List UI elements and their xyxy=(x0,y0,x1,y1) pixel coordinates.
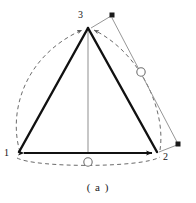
marker-group xyxy=(84,13,181,167)
square-marker-bottom-right xyxy=(176,142,181,147)
leader-line-lower-right xyxy=(159,145,177,152)
vertex-label-2: 2 xyxy=(163,152,168,162)
leader-line-group xyxy=(91,16,177,152)
circle-marker-base-mid xyxy=(84,158,92,166)
square-marker-top-right xyxy=(110,13,115,18)
triangle-edge-3-2 xyxy=(88,28,157,152)
figure-caption: ( a ) xyxy=(0,181,196,193)
figure-container: 1 2 3 ( a ) xyxy=(0,0,196,203)
dashed-arc-left xyxy=(16,30,82,152)
dashed-arc-group xyxy=(16,30,161,165)
vertex-label-1: 1 xyxy=(4,148,9,158)
circle-marker-right-edge xyxy=(137,68,145,76)
leader-line-right-edge xyxy=(112,18,177,142)
leader-line-upper-right xyxy=(91,16,111,28)
vertex-label-3: 3 xyxy=(78,10,83,20)
triangle-diagram-svg xyxy=(0,0,196,203)
triangle-edge-1-3 xyxy=(19,28,88,152)
